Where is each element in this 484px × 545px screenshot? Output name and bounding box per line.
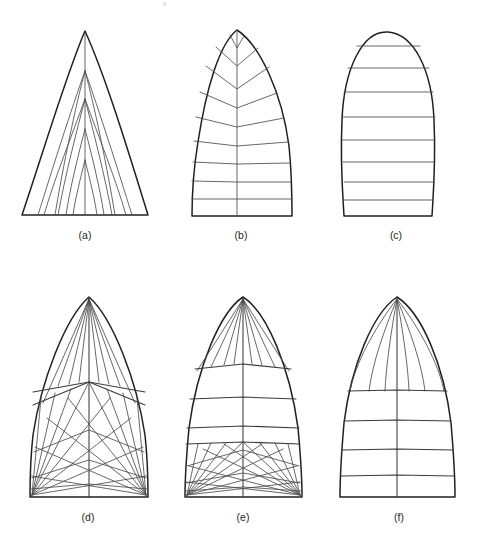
scan-artifact-mark [163,2,166,6]
sail-panel-e [185,297,302,497]
sail-outline-c [341,32,434,216]
sail-panel-f [340,297,455,497]
sail-panel-a [22,31,148,215]
caption-d: (d) [82,511,95,523]
sail-panel-d [30,297,148,497]
caption-e: (e) [237,511,250,523]
sail-outline-b [192,30,292,216]
sail-diagram-canvas: (a) (b) (c) (d) (e) (f) [0,0,484,545]
sail-panel-b [192,30,292,216]
caption-a: (a) [79,229,92,241]
caption-c: (c) [390,229,402,241]
caption-f: (f) [394,511,404,523]
sail-panel-c [341,32,435,216]
figure-board: (a) (b) (c) (d) (e) (f) [0,0,484,545]
caption-b: (b) [235,229,248,241]
